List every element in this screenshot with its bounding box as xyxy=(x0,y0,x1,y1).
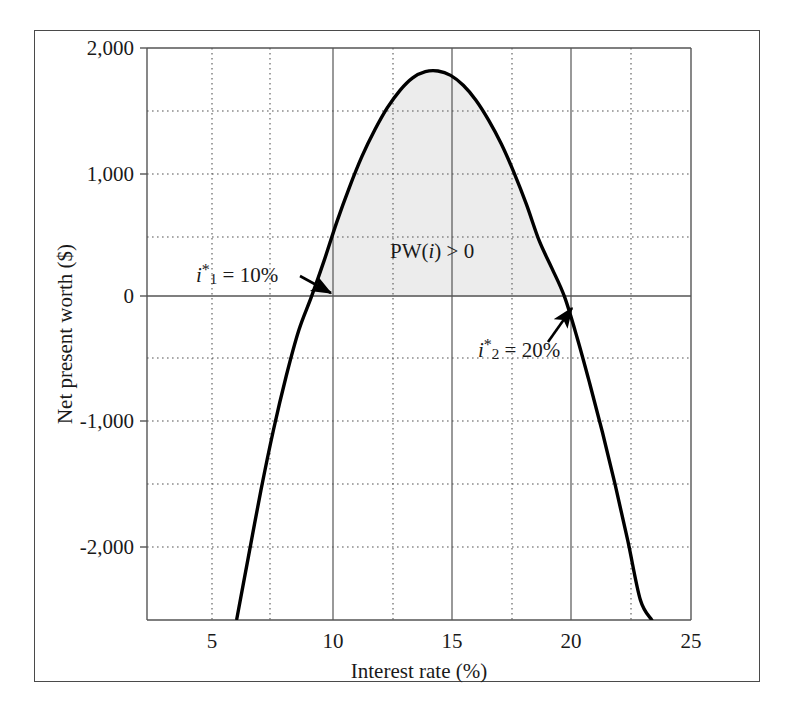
annot1-star: * xyxy=(202,261,210,278)
pw-label-suffix: ) > 0 xyxy=(434,239,474,263)
y-tick-label-1000: 1,000 xyxy=(87,162,134,186)
annot2-subscript: 2 xyxy=(492,346,500,362)
x-tick-label-25: 25 xyxy=(681,629,702,653)
annot2-star: * xyxy=(484,336,492,353)
figure-root: 2,000 1,000 0 -1,000 -2,000 5 10 15 20 2… xyxy=(0,0,792,716)
pw-label-prefix: PW( xyxy=(390,239,429,263)
annot2-rest: = 20% xyxy=(499,338,560,362)
x-tick-label-5: 5 xyxy=(207,629,218,653)
annot1-rest: = 10% xyxy=(217,263,278,287)
y-tick-marks xyxy=(140,48,147,547)
y-tick-label-neg2000: -2,000 xyxy=(80,535,134,559)
x-axis-title: Interest rate (%) xyxy=(351,659,487,683)
net-present-worth-chart: 2,000 1,000 0 -1,000 -2,000 5 10 15 20 2… xyxy=(0,0,792,716)
y-tick-label-neg1000: -1,000 xyxy=(80,409,134,433)
x-tick-label-15: 15 xyxy=(442,629,463,653)
y-axis-title: Net present worth ($) xyxy=(53,244,77,424)
pw-positive-region-label: PW(i) > 0 xyxy=(390,239,474,263)
y-tick-label-0: 0 xyxy=(124,284,135,308)
x-tick-label-10: 10 xyxy=(323,629,344,653)
y-tick-label-2000: 2,000 xyxy=(87,36,134,60)
annot1-subscript: 1 xyxy=(210,271,218,287)
x-tick-label-20: 20 xyxy=(561,629,582,653)
